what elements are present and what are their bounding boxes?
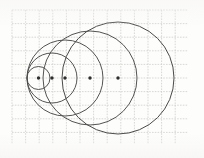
- center-dot: [88, 76, 91, 79]
- circles-figure: [0, 0, 204, 158]
- center-dot: [116, 76, 119, 79]
- center-dot: [63, 76, 66, 79]
- center-dot: [37, 76, 40, 79]
- center-dot: [50, 76, 53, 79]
- graph-paper-sheet: [0, 0, 204, 158]
